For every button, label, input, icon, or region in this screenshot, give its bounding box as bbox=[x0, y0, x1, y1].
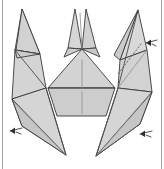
center-spike-right-point bbox=[82, 9, 96, 49]
left-upper-wing-group bbox=[12, 9, 46, 99]
left-top-spike-inner-face bbox=[15, 9, 40, 54]
center-body-triangle bbox=[48, 49, 115, 88]
origami-diagram-canvas bbox=[0, 0, 164, 169]
arrow-right-upper bbox=[146, 40, 157, 47]
center-body-group bbox=[48, 49, 115, 116]
right-upper-wing-group bbox=[114, 10, 152, 92]
arrow-left-lower bbox=[10, 128, 22, 135]
arrow-right-lower bbox=[140, 131, 152, 138]
origami-figure: Origami fold step diagram bbox=[0, 0, 164, 169]
center-body-trapezoid bbox=[48, 88, 115, 116]
